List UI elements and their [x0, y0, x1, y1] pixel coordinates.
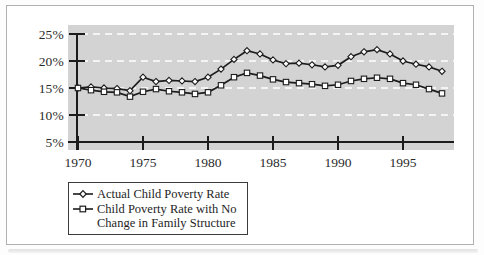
square-point	[218, 83, 223, 88]
x-tick-label-1975: 1975	[121, 155, 165, 171]
y-tick-label-10: 10%	[22, 108, 64, 124]
y-tick-label-20: 20%	[22, 54, 64, 70]
square-point	[439, 91, 444, 96]
legend-box: Actual Child Poverty Rate Child Poverty …	[68, 182, 248, 235]
y-tick-label-25: 25%	[22, 27, 64, 43]
square-point	[205, 90, 210, 95]
square-point	[400, 80, 405, 85]
square-point	[374, 75, 379, 80]
square-point	[348, 78, 353, 83]
square-point	[153, 86, 158, 91]
square-point	[413, 82, 418, 87]
square-point	[166, 89, 171, 94]
square-point	[88, 87, 93, 92]
legend-entry-counterfactual: Child Poverty Rate with No	[73, 202, 245, 217]
square-marker-icon	[73, 204, 93, 214]
legend-entry-actual: Actual Child Poverty Rate	[73, 187, 245, 202]
square-point	[387, 76, 392, 81]
square-point	[140, 89, 145, 94]
x-tick-label-1985: 1985	[251, 155, 295, 171]
square-point	[322, 83, 327, 88]
legend-label-actual: Actual Child Poverty Rate	[97, 187, 229, 202]
square-point	[296, 80, 301, 85]
square-point	[127, 94, 132, 99]
square-point	[75, 85, 80, 90]
x-tick-label-1970: 1970	[56, 155, 100, 171]
x-tick-label-1995: 1995	[381, 155, 425, 171]
page-edge-shadow	[8, 249, 478, 253]
square-point	[426, 86, 431, 91]
legend-label-counterfactual-line1: Child Poverty Rate with No	[97, 202, 237, 217]
square-point	[101, 89, 106, 94]
diamond-marker-icon	[73, 189, 93, 199]
square-point	[283, 79, 288, 84]
square-point	[244, 70, 249, 75]
square-point	[309, 82, 314, 87]
page-background: 25% 20% 15% 10% 5% 1970 1975 1980 1985 1…	[0, 0, 484, 255]
square-point	[270, 77, 275, 82]
legend-label-counterfactual-line2: Change in Family Structure	[97, 216, 245, 231]
square-point	[257, 73, 262, 78]
square-point	[179, 90, 184, 95]
y-tick-label-5: 5%	[22, 135, 64, 151]
square-point	[335, 82, 340, 87]
square-point	[361, 76, 366, 81]
square-point	[231, 75, 236, 80]
figure-frame: 25% 20% 15% 10% 5% 1970 1975 1980 1985 1…	[6, 5, 474, 245]
square-point	[192, 91, 197, 96]
x-tick-label-1990: 1990	[316, 155, 360, 171]
y-tick-label-15: 15%	[22, 81, 64, 97]
square-point	[114, 90, 119, 95]
x-tick-label-1980: 1980	[186, 155, 230, 171]
